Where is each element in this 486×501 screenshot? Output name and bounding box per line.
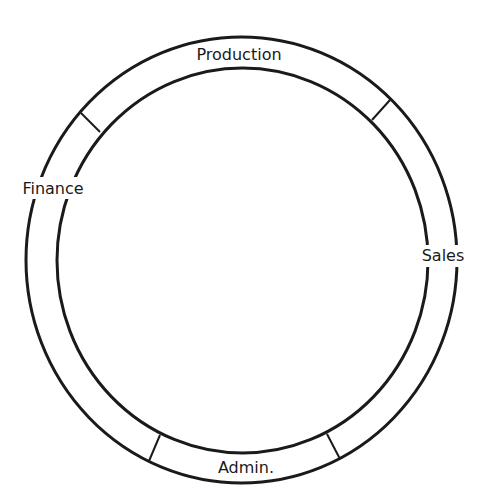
divider-admin-finance (149, 435, 160, 461)
ring-diagram: Production Sales Admin. Finance (0, 0, 486, 501)
outer-ring (26, 37, 457, 483)
divider-production-sales (372, 100, 390, 120)
inner-ring (57, 68, 428, 453)
segment-label-sales: Sales (422, 246, 465, 265)
divider-sales-admin (327, 434, 340, 459)
segment-label-finance: Finance (22, 179, 83, 198)
segment-label-production: Production (196, 45, 281, 64)
segment-label-admin: Admin. (218, 458, 274, 477)
divider-finance-production (81, 113, 100, 132)
